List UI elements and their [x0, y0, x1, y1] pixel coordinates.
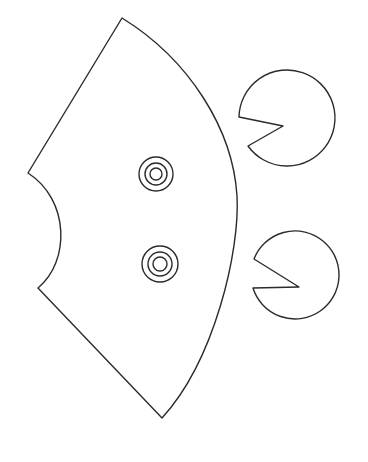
leaf-body-outline	[28, 18, 237, 418]
drawing-canvas: Line Drawing Black outline line drawing:…	[0, 0, 368, 462]
line-art-figure	[0, 0, 368, 462]
lilypad-lower	[253, 231, 339, 319]
lilypad-upper	[239, 70, 335, 166]
